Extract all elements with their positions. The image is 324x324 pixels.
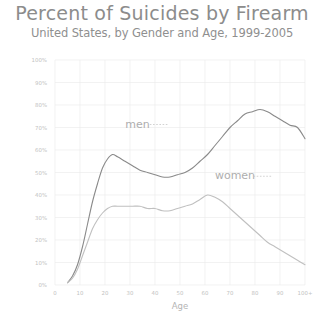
x-axis-tick-label: 60 bbox=[202, 290, 209, 296]
x-axis-tick-label: 20 bbox=[102, 290, 109, 296]
x-axis-tick-label: 30 bbox=[127, 290, 134, 296]
y-axis-tick-label: 60% bbox=[35, 147, 47, 153]
series-line-men bbox=[68, 110, 306, 283]
series-label-women: women bbox=[215, 169, 255, 182]
y-axis-tick-label: 80% bbox=[35, 102, 47, 108]
data-series-group bbox=[68, 110, 306, 283]
series-label-men: men bbox=[125, 118, 149, 131]
y-axis-tick-label: 20% bbox=[35, 237, 47, 243]
x-axis-tick-label: 50 bbox=[177, 290, 184, 296]
x-axis-tick-label: 100+ bbox=[298, 290, 313, 296]
gridlines bbox=[55, 60, 305, 285]
y-axis-tick-labels: 100%90%80%70%60%50%40%30%20%10%0% bbox=[32, 57, 47, 288]
y-axis-tick-label: 100% bbox=[32, 57, 47, 63]
x-axis-tick-label: 40 bbox=[152, 290, 159, 296]
x-axis-title: Age bbox=[172, 301, 188, 311]
y-axis-tick-label: 90% bbox=[35, 80, 47, 86]
y-axis-tick-label: 10% bbox=[35, 260, 47, 266]
y-axis-tick-label: 30% bbox=[35, 215, 47, 221]
x-axis-tick-label: 10 bbox=[77, 290, 84, 296]
series-line-women bbox=[68, 195, 306, 283]
x-axis-tick-label: 0 bbox=[53, 290, 57, 296]
x-axis-tick-labels: 0102030405060708090100+ bbox=[53, 290, 312, 296]
x-axis-tick-label: 90 bbox=[277, 290, 284, 296]
chart-page: Percent of Suicides by Firearm United St… bbox=[0, 0, 324, 324]
x-axis-tick-label: 80 bbox=[252, 290, 259, 296]
y-axis-tick-label: 50% bbox=[35, 170, 47, 176]
y-axis-tick-label: 0% bbox=[38, 282, 47, 288]
x-axis-tick-label: 70 bbox=[227, 290, 234, 296]
y-axis-tick-label: 40% bbox=[35, 192, 47, 198]
line-chart: 100%90%80%70%60%50%40%30%20%10%0% 010203… bbox=[0, 0, 324, 324]
y-axis-tick-label: 70% bbox=[35, 125, 47, 131]
